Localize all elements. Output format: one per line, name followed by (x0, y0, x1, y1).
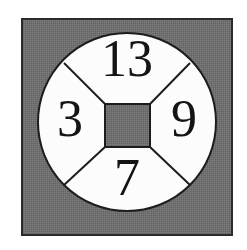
wheel-diagram: 13 3 9 7 (0, 0, 247, 250)
segment-label-left: 3 (57, 90, 83, 147)
gray-hub-square (105, 104, 150, 147)
figure-root: 13 3 9 7 (0, 0, 247, 250)
segment-label-bottom: 7 (114, 149, 140, 206)
segment-label-top: 13 (101, 30, 153, 87)
segment-label-right: 9 (171, 90, 197, 147)
